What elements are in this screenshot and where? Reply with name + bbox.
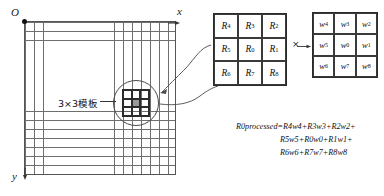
matrix-w-cell: w8: [356, 56, 377, 77]
matrix-r-cell: R7: [238, 61, 262, 85]
matrix-w-cell: w2: [356, 13, 377, 34]
matrix-r-cell: R8: [262, 61, 286, 85]
template-cell: [123, 90, 132, 99]
matrix-w-cell-sub: 4: [325, 21, 328, 27]
matrix-r-cell-sub: 5: [227, 46, 230, 53]
template-label: 3×3模板: [58, 96, 98, 110]
y-axis-label: y: [12, 170, 17, 182]
template-3x3-overlay: [122, 89, 150, 117]
matrix-w-cell-sub: 6: [325, 63, 328, 69]
template-cell: [132, 107, 141, 116]
matrix-w-cell: w3: [334, 13, 355, 34]
matrix-r-cell-sub: 4: [227, 22, 230, 29]
matrix-r-cell: R6: [214, 61, 238, 85]
matrix-r-cell-sub: 1: [275, 46, 278, 53]
matrix-r: R4 R3 R2 R5 R0 R1 R6 R7 R8: [213, 13, 287, 86]
formula-line-3: R6w6+R7w7+R8w8: [232, 146, 382, 159]
matrix-w-cell-sub: 7: [346, 63, 349, 69]
template-cell: [140, 90, 149, 99]
template-leader-line: [100, 101, 116, 102]
template-center-cell: [132, 99, 141, 108]
convolution-formula: R0processed=R4w4+R3w3+R2w2+ R5w5+R0w0+R1…: [232, 120, 382, 159]
matrix-r-cell-sub: 6: [227, 70, 230, 77]
matrix-r-cell-center: R0: [238, 38, 262, 62]
multiply-arrow-icon: [297, 43, 311, 50]
template-cell: [132, 90, 141, 99]
template-cell: [140, 99, 149, 108]
matrix-w-cell: w5: [313, 34, 334, 55]
formula-line-2: R5w5+R0w0+R1w1+: [232, 133, 382, 146]
matrix-r-cell-sub: 3: [251, 22, 254, 29]
template-cell: [123, 99, 132, 108]
matrix-w-cell-center: w0: [334, 34, 355, 55]
matrix-w-cell-sub: 0: [346, 42, 349, 48]
matrix-r-cell: R3: [238, 14, 262, 38]
x-axis-label: x: [177, 5, 182, 17]
matrix-r-cell-sub: 0: [251, 46, 254, 53]
origin-dot: [22, 19, 27, 24]
image-grid-panel: O x y 3×3模板: [0, 0, 200, 196]
matrix-w: w4 w3 w2 w5 w0 w1 w6 w7 w8: [312, 12, 378, 78]
matrix-w-cell: w1: [356, 34, 377, 55]
origin-label: O: [11, 6, 19, 18]
matrix-r-cell: R5: [214, 38, 238, 62]
formula-line-1: R0processed=R4w4+R3w3+R2w2+: [232, 120, 382, 133]
x-axis-arrow-icon: [168, 18, 180, 28]
y-axis-arrow-icon: [20, 168, 30, 180]
matrix-r-cell: R1: [262, 38, 286, 62]
matrix-r-cell-sub: 2: [275, 22, 278, 29]
matrix-w-cell-sub: 3: [346, 21, 349, 27]
matrix-r-cell: R4: [214, 14, 238, 38]
matrix-r-cell: R2: [262, 14, 286, 38]
matrix-w-cell-sub: 8: [368, 63, 371, 69]
matrix-w-cell: w4: [313, 13, 334, 34]
matrix-w-cell: w6: [313, 56, 334, 77]
matrix-w-cell-sub: 1: [368, 42, 371, 48]
template-cell: [123, 107, 132, 116]
matrix-r-cell-sub: 7: [251, 70, 254, 77]
matrix-w-cell-sub: 2: [368, 21, 371, 27]
template-cell: [140, 107, 149, 116]
matrix-w-cell-sub: 5: [325, 42, 328, 48]
matrix-r-cell-sub: 8: [275, 70, 278, 77]
matrix-w-cell: w7: [334, 56, 355, 77]
